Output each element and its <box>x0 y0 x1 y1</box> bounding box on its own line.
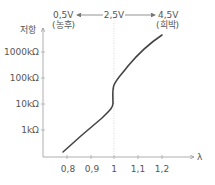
y-tick-label: 10kΩ <box>15 99 39 109</box>
x-tick-label: 1,1 <box>131 164 145 174</box>
right-voltage-label: 4,5V <box>158 10 179 20</box>
left-voltage-label: 0,5V <box>53 10 74 20</box>
right-sub-label: (희박) <box>156 19 179 30</box>
x-tick-label: 0,9 <box>85 164 100 174</box>
y-axis-label: 저항 <box>20 25 36 35</box>
y-tick-label: 100kΩ <box>10 73 39 83</box>
left-sub-label: (농후) <box>52 20 75 30</box>
x-tick-label: 1 <box>111 164 117 174</box>
x-tick-label: 0,8 <box>61 164 76 174</box>
resistance-lambda-chart: 저항 1000kΩ 100kΩ 10kΩ 1kΩ 0,8 0,9 1 1,1 1… <box>0 0 215 185</box>
x-axis-label: λ <box>197 152 203 162</box>
y-tick-label: 1kΩ <box>21 125 39 135</box>
y-tick-label: 1000kΩ <box>4 47 39 57</box>
x-tick-label: 1,2 <box>155 164 169 174</box>
center-voltage-label: 2,5V <box>104 10 125 20</box>
resistance-curve <box>63 35 162 152</box>
